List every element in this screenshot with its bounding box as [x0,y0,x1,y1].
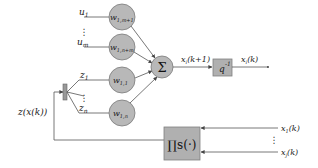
label-feedback: z(x(k)) [17,107,48,117]
product-label: ∏s(·) [168,138,197,152]
ellipsis-u: ⋮ [80,27,89,37]
label-xj: xj(k) [281,148,298,159]
ellipsis-z: ⋮ [80,93,89,103]
wire-w1-to-sum [131,26,155,58]
sum-symbol: Σ [157,60,166,75]
neuron-diagram: Σ q -1 ∏s(·) ⋮ ⋮ ⋮ u1 um z1 zn w1,m+1 w1… [0,0,318,168]
label-zn: zn [78,103,88,114]
label-sum-output: xi(k+1) [181,55,210,65]
split-to-z1 [67,80,79,92]
split-to-zn [67,92,79,113]
output-dot [267,66,269,68]
label-x1: x1(k) [281,124,300,134]
label-u1: u1 [79,7,89,18]
label-z1: z1 [79,70,89,81]
delay-sup: -1 [225,60,231,67]
wire-w2-to-sum [134,52,152,63]
wire-w3-to-sum [135,71,152,78]
label-um: um [77,37,89,48]
splitter-bar [63,84,67,100]
label-delay-output: xi(k) [241,55,258,65]
ellipsis-product-inputs: ⋮ [270,135,279,145]
